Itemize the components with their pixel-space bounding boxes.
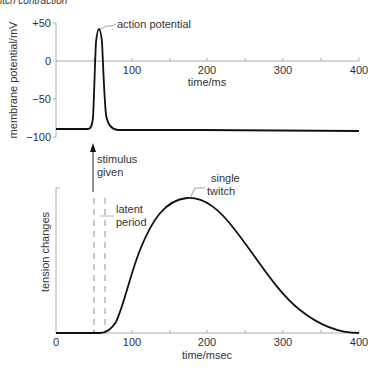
latent-label-line1: latent xyxy=(116,203,143,215)
figure-svg: itch contraction +50 0 −50 −100 xyxy=(0,0,380,370)
membrane-potential-chart: +50 0 −50 −100 100 200 300 400 time/ms m… xyxy=(7,17,368,143)
stimulus-arrow-icon xyxy=(90,143,96,152)
upper-x-label: time/ms xyxy=(188,76,227,88)
stimulus-label-line2: given xyxy=(97,166,123,178)
lower-xtick-label: 200 xyxy=(198,336,216,348)
single-twitch-leader xyxy=(190,188,205,198)
upper-xtick-label: 400 xyxy=(350,64,368,76)
lower-xtick-label: 100 xyxy=(123,336,141,348)
latent-label-line2: period xyxy=(116,216,147,228)
lower-xtick-label: 400 xyxy=(350,336,368,348)
caption-fragment: itch contraction xyxy=(0,0,68,6)
upper-ytick-label: −50 xyxy=(32,93,51,105)
twitch-label-line2: twitch xyxy=(207,185,235,197)
action-potential-leader xyxy=(101,24,116,29)
upper-ytick-label: +50 xyxy=(32,17,51,29)
upper-xtick-label: 100 xyxy=(123,64,141,76)
muscle-twitch-figure: itch contraction +50 0 −50 −100 xyxy=(0,0,380,370)
upper-ytick-label: 0 xyxy=(45,55,51,67)
stimulus-label-line1: stimulus xyxy=(97,153,138,165)
upper-y-label: membrane potential/mV xyxy=(7,21,19,138)
lower-xtick-label: 300 xyxy=(274,336,292,348)
single-twitch-curve xyxy=(56,198,359,333)
stimulus-marker: stimulus given xyxy=(90,143,138,192)
twitch-label-line1: single xyxy=(211,172,240,184)
upper-xtick-label: 200 xyxy=(198,64,216,76)
action-potential-label: action potential xyxy=(117,18,191,30)
lower-x-label: time/msec xyxy=(182,349,233,361)
lower-y-label: tension changes xyxy=(39,211,51,292)
lower-xtick-label: 0 xyxy=(53,336,59,348)
upper-xtick-label: 300 xyxy=(274,64,292,76)
tension-chart: 0 100 200 300 400 time/msec tension chan… xyxy=(39,172,368,361)
upper-ytick-label: −100 xyxy=(26,131,51,143)
